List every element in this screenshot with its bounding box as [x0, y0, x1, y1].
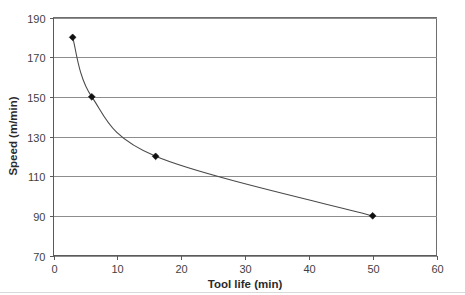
x-tick-label-40: 40 [303, 263, 315, 275]
x-tick-label-50: 50 [367, 263, 379, 275]
x-tick-label-0: 0 [51, 263, 57, 275]
y-axis-title: Speed (m/min) [7, 96, 19, 175]
tool-life-speed-chart: 7090110130150170190 0102030405060 Tool l… [0, 0, 465, 295]
x-tick-label-60: 60 [431, 263, 443, 275]
x-tick-label-20: 20 [175, 263, 187, 275]
plot-area [54, 18, 437, 256]
y-tick-label-110: 110 [28, 171, 46, 183]
y-tick-label-90: 90 [33, 211, 45, 223]
y-tick-label-70: 70 [33, 251, 45, 263]
y-axis-tick-labels: 7090110130150170190 [27, 13, 45, 263]
x-tick-label-10: 10 [111, 263, 123, 275]
y-tick-label-170: 170 [27, 52, 45, 64]
y-tick-label-150: 150 [27, 92, 45, 104]
y-tick-label-190: 190 [27, 13, 45, 25]
y-tick-label-130: 130 [27, 132, 45, 144]
chart-canvas: 7090110130150170190 0102030405060 Tool l… [0, 0, 465, 295]
x-axis-title: Tool life (min) [208, 278, 283, 290]
x-tick-label-30: 30 [239, 263, 251, 275]
x-axis-tick-labels: 0102030405060 [51, 263, 443, 275]
y-axis-tickmarks [50, 19, 54, 257]
